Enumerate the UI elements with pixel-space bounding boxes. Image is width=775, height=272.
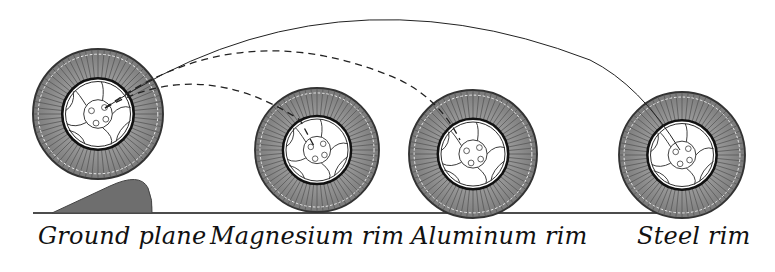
trajectories <box>105 20 680 150</box>
aluminum-wheel <box>409 90 537 218</box>
ground-bump <box>52 179 152 213</box>
label-magnesium-rim: Magnesium rim <box>210 222 404 250</box>
steel-wheel <box>619 92 745 218</box>
magnesium-wheel <box>255 88 379 212</box>
label-aluminum-rim: Aluminum rim <box>411 222 588 250</box>
ground-wheel <box>33 49 163 179</box>
label-steel-rim: Steel rim <box>637 222 751 250</box>
label-ground-plane: Ground plane <box>38 222 206 250</box>
